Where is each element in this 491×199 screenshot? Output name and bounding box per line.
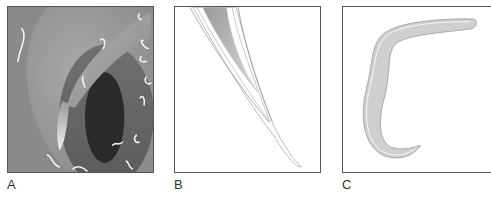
panel-c-illustration xyxy=(342,6,491,173)
panel-a-graphic xyxy=(8,7,153,172)
panel-a-illustration xyxy=(7,6,154,173)
panel-a-label: A xyxy=(7,177,16,192)
panel-c-graphic xyxy=(343,7,491,172)
panel-b-illustration xyxy=(174,6,321,173)
panel-c-label: C xyxy=(342,177,351,192)
panel-b-graphic xyxy=(175,7,320,172)
panel-b-label: B xyxy=(174,177,183,192)
